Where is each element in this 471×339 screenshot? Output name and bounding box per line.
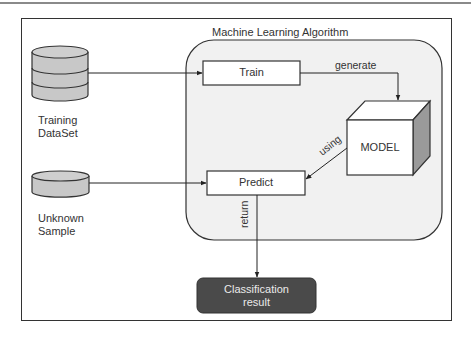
edge-label-return: return: [238, 201, 251, 228]
model-cube-icon: [347, 101, 430, 175]
training-dataset-line1: Training: [38, 114, 78, 127]
training-dataset-label: Training DataSet: [38, 114, 78, 140]
unknown-sample-line2: Sample: [38, 225, 84, 238]
training-dataset-line2: DataSet: [38, 127, 78, 140]
classification-result-label: Classification result: [197, 283, 316, 309]
region-title: Machine Learning Algorithm: [212, 26, 348, 39]
unknown-sample-line1: Unknown: [38, 212, 84, 225]
predict-label: Predict: [207, 176, 305, 188]
model-label: MODEL: [347, 141, 413, 153]
training-dataset-database-icon: [32, 46, 88, 101]
edge-label-generate: generate: [335, 59, 376, 72]
classification-result-line2: result: [197, 296, 316, 309]
train-label: Train: [203, 66, 300, 78]
unknown-sample-database-icon: [32, 171, 89, 197]
unknown-sample-label: Unknown Sample: [38, 212, 84, 238]
classification-result-line1: Classification: [197, 283, 316, 296]
